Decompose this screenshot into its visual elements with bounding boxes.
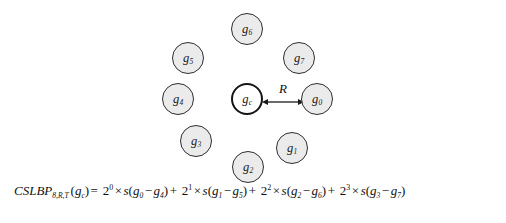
- node-g-3-label: g3: [191, 134, 201, 147]
- radius-double-arrow-icon: [262, 96, 304, 108]
- formula-function-subscript: 8,R,T: [52, 191, 68, 200]
- node-g-7: g7: [283, 42, 315, 74]
- formula-argument-subscript: c: [81, 191, 84, 200]
- node-g-0: g0: [301, 83, 333, 115]
- formula-equals: =: [89, 183, 99, 198]
- node-g-4-label: g4: [173, 92, 183, 105]
- node-g-4: g4: [162, 83, 194, 115]
- figure-canvas: R gc g0: [0, 0, 506, 223]
- radius-label: R: [262, 82, 304, 95]
- cs-lbp-neighborhood-diagram: R gc g0: [0, 0, 506, 185]
- node-g-7-label: g7: [294, 51, 304, 64]
- formula-function-name: CSLBP: [14, 183, 52, 198]
- formula-term-1: 21×s(g1−g5)+: [182, 183, 258, 198]
- node-g-2-label: g2: [243, 160, 253, 173]
- node-g-6-label: g6: [242, 22, 252, 35]
- radius-annotation: R: [262, 82, 304, 112]
- node-g-3: g3: [180, 125, 212, 157]
- node-g-1-label: g1: [287, 141, 297, 154]
- formula-term-2: 22×s(g2−g6)+: [261, 183, 337, 198]
- formula-term-0: 20×s(g0−g4)+: [103, 183, 179, 198]
- node-g-1: g1: [276, 132, 308, 164]
- node-g-6: g6: [231, 13, 263, 45]
- node-g-c: gc: [231, 83, 263, 115]
- node-g-5: g5: [172, 42, 204, 74]
- cs-lbp-formula: CSLBP8,R,T(gc)= 20×s(g0−g4)+ 21×s(g1−g5)…: [14, 184, 405, 199]
- node-g-2: g2: [232, 151, 264, 183]
- formula-term-3: 23×s(g3−g7): [340, 183, 405, 198]
- node-g-0-label: g0: [312, 92, 322, 105]
- node-g-c-label: gc: [242, 92, 252, 105]
- node-g-5-label: g5: [183, 51, 193, 64]
